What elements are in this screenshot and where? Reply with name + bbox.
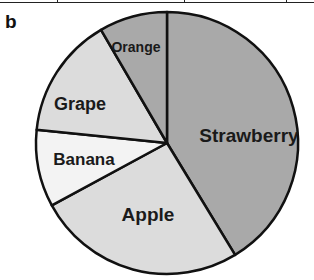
slice-label-strawberry: Strawberry [199,125,299,146]
slice-label-orange: Orange [111,39,160,55]
pie-chart: StrawberryAppleBananaGrapeOrange [0,0,314,280]
slice-label-banana: Banana [53,150,115,169]
slice-label-apple: Apple [122,204,175,225]
slice-label-grape: Grape [54,94,106,114]
